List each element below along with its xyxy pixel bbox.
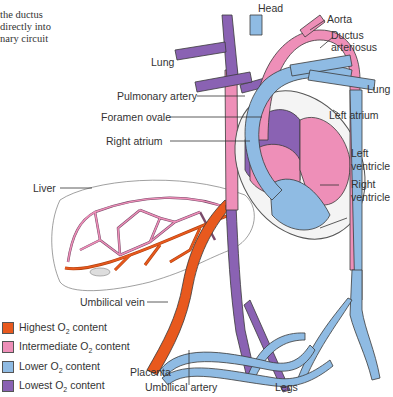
label-lung-right: Lung: [367, 83, 390, 95]
label-left-ventricle-2: ventricle: [351, 160, 390, 172]
label-ductus-arteriosus-1: Ductus: [331, 29, 364, 41]
label-legs: Legs: [275, 381, 298, 393]
label-pulmonary-artery: Pulmonary artery: [117, 90, 197, 102]
label-foramen-ovale: Foramen ovale: [101, 111, 171, 123]
label-placenta: Placenta: [130, 366, 171, 378]
legend-item-lower: Lower O2 content: [2, 357, 130, 377]
label-umbilical-vein: Umbilical vein: [80, 296, 145, 308]
label-lung-left: Lung: [151, 56, 174, 68]
label-right-ventricle-1: Right: [351, 178, 376, 190]
legend-item-intermediate: Intermediate O2 content: [2, 338, 130, 358]
label-right-atrium: Right atrium: [106, 135, 163, 147]
label-ductus-arteriosus-2: arteriosus: [331, 41, 377, 53]
legend: Highest O2 content Intermediate O2 conte…: [2, 318, 130, 396]
umbilical-vein: [147, 200, 232, 375]
label-right-ventricle-2: ventricle: [351, 191, 390, 203]
label-head: Head: [258, 2, 283, 14]
label-liver: Liver: [33, 182, 56, 194]
swatch-highest: [2, 322, 14, 334]
legend-item-highest: Highest O2 content: [2, 318, 130, 338]
swatch-lowest: [2, 380, 14, 392]
label-left-atrium: Left atrium: [329, 109, 379, 121]
legend-item-lowest: Lowest O2 content: [2, 377, 130, 397]
gallbladder: [90, 268, 110, 276]
label-left-ventricle-1: Left: [351, 147, 369, 159]
label-umbilical-artery: Umbilical artery: [145, 381, 217, 393]
swatch-intermediate: [2, 341, 14, 353]
swatch-lower: [2, 361, 14, 373]
label-aorta: Aorta: [327, 13, 352, 25]
